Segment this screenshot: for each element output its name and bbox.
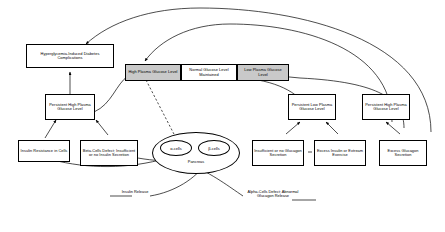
node-persistent-high-plasma-right[interactable]: Persistent High Plasma Glucose Level [362,94,410,120]
node-normal-glucose-maintained[interactable]: Normal Glucose Level Maintained [181,64,237,81]
node-label: High Plasma Glucose Level [128,70,177,74]
node-label: Persistent Low Plasma Glucose Level [290,103,334,112]
node-label: Excess Glucagon Secretion [381,149,425,158]
node-low-plasma-glucose[interactable]: Low Plasma Glucose Level [237,64,289,81]
edge-insulin-resistance-to-persistent-high-left [45,120,56,138]
alpha-cells-label: α-cells [170,146,181,151]
node-insulin-resistance[interactable]: Insulin Resistance in Cells [18,140,70,162]
node-label: Hyperglycemia-Induced Diabetes Complicat… [28,52,112,61]
node-beta-cells-defect[interactable]: Beta-Cells Defect; Insufficient or no In… [80,140,138,166]
node-excess-glucagon-secretion[interactable]: Excess Glucagon Secretion [379,140,427,166]
alpha-cells-shape[interactable]: α-cells [160,140,192,156]
diagram-canvas: Hyperglycemia-Induced Diabetes Complicat… [0,0,445,232]
node-insufficient-glucagon-secretion[interactable]: Insufficient or no Glucagon Secretion [252,140,304,166]
edge-persistent-high-left-to-high-plasma [94,76,128,112]
node-label: Low Plasma Glucose Level [239,68,287,77]
node-label: Beta-Cells Defect; Insufficient or no In… [82,149,136,158]
node-excess-insulin-or-exercise[interactable]: Excess Insulin or Extream Exercise [314,140,366,166]
node-label: Insulin Resistance in Cells [21,149,68,153]
node-high-plasma-glucose[interactable]: High Plasma Glucose Level [125,64,181,81]
pancreas-label: Pancreas [172,160,220,164]
beta-cells-label: β-cells [208,146,219,151]
edge-label-alpha-cells-defect: Alpha-Cells Defect; Abnormal Glucagon Re… [242,190,304,199]
node-persistent-high-plasma-left[interactable]: Persistent High Plasma Glucose Level [45,94,95,120]
node-label: Persistent High Plasma Glucose Level [364,103,408,112]
beta-cells-shape[interactable]: β-cells [198,140,230,156]
node-label: Persistent High Plasma Glucose Level [47,103,93,112]
edge-high-plasma-to-alpha-cells-dashed [146,80,176,138]
node-label: Normal Glucose Level Maintained [183,68,235,77]
edge-insufficient-glucagon-to-persistent-low [286,122,300,134]
node-label: Excess Insulin or Extream Exercise [316,149,364,158]
edge-beta-defect-to-persistent-high-left [96,120,108,135]
edge-excess-glucagon-to-persistent-high-right [386,122,400,134]
edge-excess-insulin-to-persistent-low [326,122,338,134]
node-persistent-low-plasma-right[interactable]: Persistent Low Plasma Glucose Level [288,94,336,120]
node-hyperglycemia-complications[interactable]: Hyperglycemia-Induced Diabetes Complicat… [26,44,114,68]
edge-label-insulin-release: Insulin Release [118,190,152,194]
node-label: Insufficient or no Glucagon Secretion [254,149,302,158]
